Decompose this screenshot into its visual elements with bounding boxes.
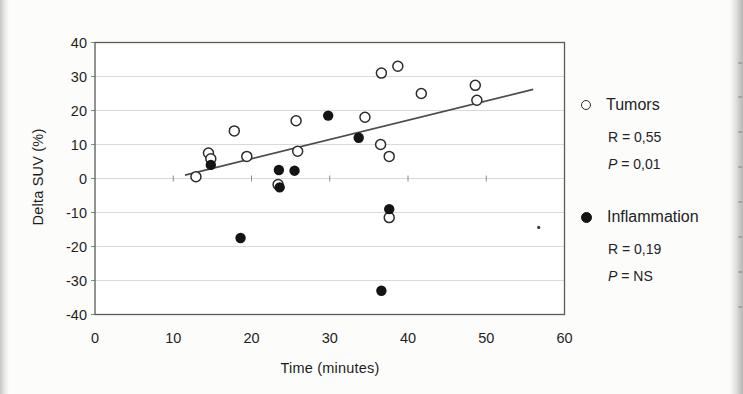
data-point-inflammation	[274, 182, 284, 192]
x-tick-label-10: 10	[165, 330, 181, 346]
x-tick-label-40: 40	[400, 330, 416, 346]
x-tick-label-20: 20	[243, 330, 259, 346]
data-point-tumor	[470, 80, 480, 90]
scanned-figure-page: 403020100-10-20-30-400102030405060 Time …	[0, 0, 743, 394]
y-tick-label--40: -40	[66, 307, 87, 323]
inflammation-r-value: R = 0,19	[608, 236, 736, 263]
open-circle-icon	[581, 100, 591, 110]
scan-speck	[537, 226, 540, 229]
data-point-inflammation	[235, 233, 245, 243]
legend-inflammation: Inflammation R = 0,19 P = NS	[581, 208, 736, 290]
data-point-tumor	[416, 89, 426, 99]
tumors-r-value: R = 0,55	[608, 124, 736, 151]
x-tick-label-60: 60	[556, 330, 572, 346]
legend-tumors-row: Tumors	[581, 96, 736, 114]
y-tick-label-10: 10	[71, 137, 87, 153]
scatter-plot-canvas: 403020100-10-20-30-400102030405060	[0, 0, 743, 394]
x-tick-label-30: 30	[322, 330, 338, 346]
data-point-inflammation	[206, 160, 216, 170]
data-point-inflammation	[274, 165, 284, 175]
y-tick-label-20: 20	[71, 103, 87, 119]
legend-inflammation-row: Inflammation	[581, 208, 736, 226]
inflammation-p-value: P = NS	[608, 263, 736, 290]
data-point-inflammation	[323, 110, 333, 120]
data-point-inflammation	[289, 165, 299, 175]
data-point-tumor	[293, 146, 303, 156]
legend-inflammation-label: Inflammation	[607, 208, 699, 226]
y-tick-label--10: -10	[66, 205, 87, 221]
tumors-p-value: P = 0,01	[608, 151, 736, 178]
x-tick-label-0: 0	[91, 330, 99, 346]
data-point-inflammation	[354, 133, 364, 143]
y-tick-label-40: 40	[71, 35, 87, 51]
data-point-tumor	[229, 126, 239, 136]
y-tick-label--20: -20	[66, 239, 87, 255]
data-point-tumor	[291, 116, 301, 126]
data-point-tumor	[472, 95, 482, 105]
data-point-tumor	[242, 151, 252, 161]
x-axis-title: Time (minutes)	[95, 360, 565, 376]
y-tick-label-0: 0	[79, 171, 87, 187]
legend-tumors-stats: R = 0,55 P = 0,01	[608, 124, 736, 178]
y-tick-label--30: -30	[66, 273, 87, 289]
data-point-inflammation	[384, 204, 394, 214]
data-point-tumor	[393, 61, 403, 71]
y-axis-title: Delta SUV (%)	[30, 76, 46, 278]
data-point-tumor	[376, 68, 386, 78]
data-point-inflammation	[376, 286, 386, 296]
legend-tumors: Tumors R = 0,55 P = 0,01	[581, 96, 736, 178]
legend-tumors-label: Tumors	[606, 96, 660, 114]
x-tick-label-50: 50	[478, 330, 494, 346]
data-point-tumor	[191, 172, 201, 182]
legend-inflammation-stats: R = 0,19 P = NS	[608, 236, 736, 290]
data-point-tumor	[384, 151, 394, 161]
data-point-tumor	[376, 140, 386, 150]
y-tick-label-30: 30	[71, 69, 87, 85]
filled-circle-icon	[581, 212, 592, 223]
data-point-tumor	[360, 112, 370, 122]
